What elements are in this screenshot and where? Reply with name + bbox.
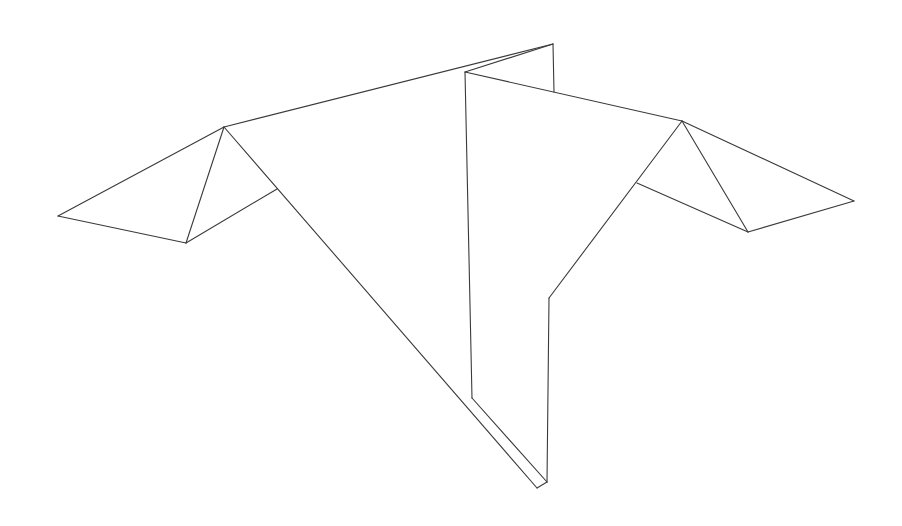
edge-top-right-ridge	[465, 72, 682, 121]
edge-top-left-ridge	[224, 44, 553, 127]
edge-right-wing-lower	[748, 201, 854, 232]
edge-center-vertical	[465, 72, 472, 398]
edge-inner-top-ridge	[465, 44, 553, 72]
edge-right-wing-upper	[682, 121, 854, 201]
line-drawing	[0, 0, 902, 526]
edge-right-vertical	[547, 298, 549, 482]
edge-left-wing-inner	[186, 189, 277, 243]
edge-left-long-diagonal	[224, 127, 537, 488]
edge-right-wing-crease	[682, 121, 748, 232]
edge-bottom-cap	[537, 482, 547, 488]
edge-center-lower-diagonal	[472, 398, 547, 482]
folded-shape-diagram	[0, 0, 902, 526]
edge-back-vertical	[553, 44, 554, 92]
edge-right-wing-inner	[637, 183, 748, 232]
edge-left-wing-lower	[58, 216, 186, 243]
edge-right-diagonal	[549, 121, 682, 298]
